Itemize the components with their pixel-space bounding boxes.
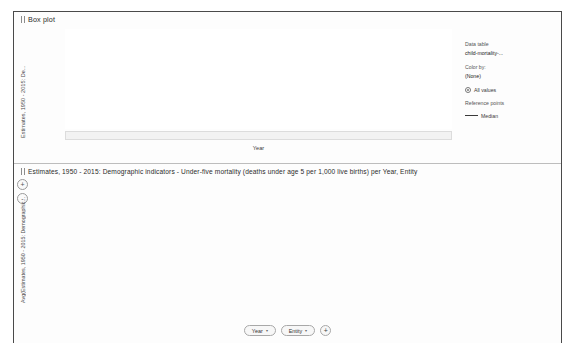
panel-divider [14, 163, 561, 164]
drag-grip-icon[interactable] [21, 168, 25, 175]
legend-data-table-value[interactable]: child-mortality-... [465, 49, 555, 58]
bar-chart-y-axis-label: Avg(Estimates, 1950 - 2015: Demographic.… [20, 197, 26, 303]
year-filter-label: Year [252, 328, 263, 334]
median-line-icon [465, 115, 478, 116]
legend-all-values-option[interactable]: All values [465, 86, 555, 95]
bar-chart-panel: Estimates, 1950 - 2015: Demographic indi… [14, 165, 561, 343]
zoom-in-button[interactable]: + [17, 179, 28, 190]
legend-median-label: Median [481, 113, 498, 119]
legend-data-table-header: Data table [465, 40, 555, 49]
bar-chart-y-axis [36, 181, 62, 285]
drag-grip-icon[interactable] [21, 16, 25, 23]
box-plot-x-axis-labels[interactable] [65, 131, 452, 140]
entity-filter-button[interactable]: Entity ▾ [281, 325, 315, 336]
box-plot-y-axis [32, 29, 63, 129]
bar-chart-area[interactable] [64, 181, 535, 285]
box-plot-panel-title: Box plot [21, 15, 55, 24]
add-field-button[interactable]: + [320, 325, 331, 336]
year-filter-button[interactable]: Year ▾ [244, 325, 276, 336]
box-plot-y-axis-label: Estimates, 1950 - 2015: De... [20, 46, 26, 138]
box-plot-graphic [65, 29, 452, 129]
box-plot-title-text: Box plot [28, 15, 55, 24]
box-plot-area[interactable] [65, 29, 452, 129]
legend-reference-points-header: Reference points [465, 99, 555, 108]
legend-color-by-header: Color by: [465, 63, 555, 72]
chevron-down-icon: ▾ [305, 328, 307, 333]
box-plot-x-axis-title: Year [65, 145, 452, 151]
bar-chart-x-axis-labels[interactable] [64, 286, 535, 330]
box-plot-panel: Box plot Estimates, 1950 - 2015: De... Y… [14, 12, 561, 164]
chevron-down-icon: ▾ [266, 328, 268, 333]
bar-chart-title-text: Estimates, 1950 - 2015: Demographic indi… [28, 168, 417, 175]
bar-chart-graphic [64, 181, 535, 285]
legend-all-values-label: All values [474, 87, 496, 93]
bar-chart-panel-title: Estimates, 1950 - 2015: Demographic indi… [21, 168, 417, 175]
legend-median-entry[interactable]: Median [465, 112, 555, 121]
legend-color-by-value[interactable]: (None) [465, 72, 555, 81]
box-plot-legend: Data table child-mortality-... Color by:… [465, 40, 555, 121]
bar-chart-footer-controls: Year ▾ Entity ▾ + [14, 325, 561, 336]
radio-selected-icon[interactable] [465, 87, 471, 93]
entity-filter-label: Entity [289, 328, 302, 334]
visualization-window: Box plot Estimates, 1950 - 2015: De... Y… [13, 11, 562, 343]
